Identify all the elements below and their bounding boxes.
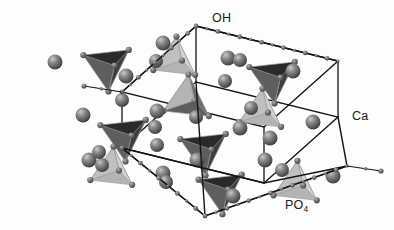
ca-atom-4 [119, 69, 134, 84]
ca-atom-24 [159, 175, 173, 189]
tetra-6-oxygen-3 [122, 158, 128, 164]
oh-chain-bottom-right-bead-12 [334, 167, 339, 172]
oh-chain-bottom-left-bead-5 [167, 184, 170, 187]
ca-atom-14 [306, 115, 321, 130]
ca-atom-11 [148, 120, 162, 134]
oh-chain-top-left-bead-6 [169, 46, 174, 51]
oh-chain-top-left-bead-1 [129, 83, 132, 86]
oh-chain-top-left-bead-2 [136, 75, 141, 80]
ca-atom-15 [244, 101, 258, 115]
tetra-7-oxygen-2 [116, 167, 122, 173]
oh-chain-bottom-right-bead-7 [280, 187, 283, 190]
crystal-structure-figure: OHCaPO4 [0, 0, 394, 230]
oh-chain-bottom-right-bead-3 [236, 203, 239, 206]
ca-atom-27 [92, 145, 106, 159]
label-ca-text: Ca [352, 109, 368, 123]
oh-stub-right-oxygen [378, 168, 383, 173]
oh-chain-top-right-bead-2 [215, 29, 220, 34]
tetra-10-oxygen-2 [300, 182, 306, 188]
ca-atom-1 [156, 36, 171, 51]
tetra-8-oxygen-2 [208, 146, 214, 152]
oh-chain-bottom-left-bead-2 [138, 161, 143, 166]
oh-chain-top-right-bead-9 [293, 49, 296, 52]
ca-atom-21 [258, 153, 273, 168]
ca-atom-16 [263, 131, 278, 146]
oh-chain-bottom-right-bead-8 [290, 183, 295, 188]
oh-chain-bottom-right-bead-2 [224, 206, 229, 211]
tetra-6-oxygen-2 [128, 132, 134, 138]
oh-chain-bottom-right-bead-4 [246, 198, 251, 203]
tetra-10-oxygen-3 [294, 158, 300, 164]
oh-chain-top-right-bead-3 [227, 32, 230, 35]
ca-atom-13 [233, 121, 248, 136]
ca-atom-12 [189, 110, 203, 124]
oh-stub-left-oxygen [81, 83, 86, 88]
oh-chain-top-right-bead-10 [303, 51, 308, 56]
oh-chain-bottom-left-bead-3 [148, 169, 151, 172]
oh-chain-top-right-bead-0 [194, 24, 199, 29]
oh-chain-bottom-right-bead-1 [214, 211, 217, 214]
ca-atom-8 [286, 64, 301, 79]
tetra-1-oxygen-1 [126, 47, 132, 53]
oh-chain-bottom-left-bead-0 [120, 146, 125, 151]
label-oh-text: OH [212, 11, 231, 25]
label-oh: OH [212, 11, 231, 25]
ca-atom-7 [218, 74, 232, 88]
tetra-4-oxygen-2 [277, 74, 283, 80]
oh-chain-top-right-bead-7 [271, 43, 274, 46]
oh-chain-bottom-right-bead-10 [312, 175, 317, 180]
tetra-10-oxygen-1 [314, 197, 320, 203]
ca-atom-20 [95, 158, 109, 172]
oh-chain-top-right-bead-8 [281, 45, 286, 50]
tetra-9-oxygen-3 [219, 211, 225, 217]
oh-stub-right-hydrogen [364, 167, 367, 170]
ca-atom-25 [226, 189, 241, 204]
ca-atom-6 [233, 53, 247, 67]
tetra-9-oxygen-0 [195, 177, 201, 183]
label-po4-text: PO [285, 198, 304, 212]
tetra-3-oxygen-3 [185, 71, 191, 77]
tetra-3-oxygen-1 [206, 113, 212, 119]
oh-chain-top-left-bead-3 [145, 68, 148, 71]
tetra-2-oxygen-1 [192, 72, 198, 78]
oh-chain-bottom-right-bead-11 [324, 172, 327, 175]
tetra-4-oxygen-0 [246, 64, 252, 70]
tetra-7-oxygen-0 [87, 177, 93, 183]
tetra-1-oxygen-2 [111, 62, 117, 68]
ca-atom-10 [76, 108, 91, 123]
oh-chain-bottom-right-bead-5 [258, 195, 261, 198]
label-po4-subscript: 4 [303, 204, 308, 214]
oh-chain-top-right-bead-5 [249, 38, 252, 41]
ca-atom-17 [150, 138, 164, 152]
tetra-1-oxygen-0 [80, 52, 86, 58]
oh-chain-top-right-bead-12 [325, 56, 330, 61]
tetra-8-oxygen-1 [223, 131, 229, 137]
oh-chain-bottom-left-bead-7 [185, 199, 188, 202]
oh-chain-bottom-right-bead-6 [268, 191, 273, 196]
oh-chain-bottom-right-bead-0 [203, 214, 208, 219]
oh-chain-top-left-bead-7 [178, 39, 181, 42]
tetra-8-oxygen-0 [177, 136, 183, 142]
tetra-6-oxygen-0 [97, 122, 103, 128]
oh-chain-top-right-bead-1 [205, 27, 208, 30]
label-ca: Ca [352, 109, 368, 123]
ca-atom-2 [115, 93, 129, 107]
tetra-5-oxygen-1 [278, 124, 284, 130]
oh-chain-top-left-bead-4 [152, 60, 157, 65]
oh-chain-bottom-left-bead-4 [156, 176, 161, 181]
ca-atom-26 [275, 163, 289, 177]
oh-chain-top-right-bead-13 [336, 59, 339, 62]
tetra-5-oxygen-2 [265, 109, 271, 115]
tetra-5-oxygen-3 [259, 85, 265, 91]
oh-chain-bottom-left-bead-8 [193, 206, 198, 211]
oh-chain-top-right-bead-6 [259, 40, 264, 45]
oh-chain-bottom-right-bead-9 [302, 180, 305, 183]
tetra-8-oxygen-3 [202, 172, 208, 178]
oh-chain-bottom-left-bead-6 [175, 191, 180, 196]
tetra-6-oxygen-1 [143, 117, 149, 123]
oh-stub-left-hydrogen [99, 87, 102, 90]
tetra-4-oxygen-3 [271, 100, 277, 106]
ca-atom-9 [150, 104, 165, 119]
oh-chain-top-left-bead-5 [162, 54, 165, 57]
tetra-2-oxygen-2 [179, 57, 185, 63]
